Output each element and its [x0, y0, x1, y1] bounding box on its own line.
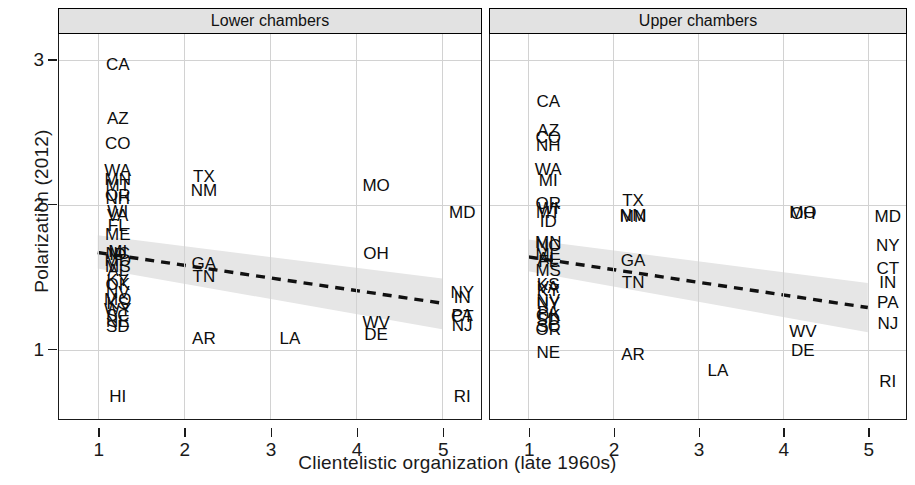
- data-point-label: MO: [362, 176, 389, 193]
- data-point-label: DE: [364, 325, 388, 342]
- x-gridline: [868, 34, 869, 419]
- data-point-label: NY: [876, 237, 900, 254]
- x-axis-tick: [529, 428, 531, 437]
- chart-figure: Polarization (2012) Lower chambers CAAZC…: [0, 0, 915, 485]
- data-point-label: AR: [621, 345, 645, 362]
- data-point-label: TN: [622, 273, 645, 290]
- data-point-label: LA: [708, 361, 729, 378]
- facet-strip-label: Lower chambers: [211, 12, 329, 30]
- data-point-label: CA: [536, 92, 560, 109]
- data-point-label: PA: [877, 293, 898, 310]
- x-gridline: [783, 34, 784, 419]
- data-point-label: IN: [879, 273, 896, 290]
- data-point-label: AR: [192, 329, 216, 346]
- facet-strip-label: Upper chambers: [639, 12, 757, 30]
- data-point-label: GA: [621, 251, 646, 268]
- data-point-label: OH: [363, 244, 389, 261]
- data-point-label: MN: [620, 208, 646, 225]
- data-point-label: RI: [879, 373, 896, 390]
- data-point-label: MD: [875, 208, 901, 225]
- data-point-label: NM: [191, 182, 217, 199]
- data-point-label: MI: [539, 172, 558, 189]
- y-gridline: [59, 350, 481, 351]
- x-gridline: [356, 34, 357, 419]
- y-axis-tick: [48, 349, 57, 351]
- x-gridline: [270, 34, 271, 419]
- data-point-label: CO: [105, 134, 131, 151]
- y-axis-tick: [48, 204, 57, 206]
- data-point-label: TN: [193, 267, 216, 284]
- data-point-label: NE: [536, 344, 560, 361]
- data-point-label: IN: [454, 289, 471, 306]
- data-point-label: LA: [280, 329, 301, 346]
- x-axis-tick: [614, 428, 616, 437]
- data-point-label: WV: [789, 322, 816, 339]
- data-point-label: AZ: [107, 109, 129, 126]
- data-point-label: OH: [790, 205, 816, 222]
- x-axis-tick: [443, 428, 445, 437]
- plot-area-lower-chambers: CAAZCOWAMNMTORNHWIVAFLMEMINCIDMDMSALKYOK…: [58, 34, 482, 420]
- x-axis-label: Clientelistic organization (late 1960s): [0, 452, 915, 474]
- data-point-label: HI: [109, 387, 126, 404]
- facet-strip-lower-chambers: Lower chambers: [58, 8, 482, 34]
- data-point-label: ME: [105, 225, 131, 242]
- facet-panel-upper-chambers: Upper chambers CAAZCONHWAMIORWIMTIDMNNCM…: [489, 8, 907, 420]
- x-axis-tick: [271, 428, 273, 437]
- y-axis-tick-label: 2: [22, 194, 44, 216]
- data-point-label: RI: [454, 387, 471, 404]
- x-axis-tick: [699, 428, 701, 437]
- x-gridline: [184, 34, 185, 419]
- x-axis-tick: [783, 428, 785, 437]
- y-axis-tick: [48, 59, 57, 61]
- y-axis-tick-label: 3: [22, 49, 44, 71]
- x-gridline: [528, 34, 529, 419]
- y-gridline: [490, 60, 906, 61]
- x-axis-tick: [357, 428, 359, 437]
- data-point-label: NJ: [452, 316, 473, 333]
- x-axis-tick: [184, 428, 186, 437]
- data-point-label: SD: [106, 318, 130, 335]
- data-point-label: MD: [449, 204, 475, 221]
- data-point-label: ID: [540, 212, 557, 229]
- data-point-label: NH: [536, 137, 561, 154]
- data-point-label: OR: [535, 321, 561, 338]
- facet-strip-upper-chambers: Upper chambers: [489, 8, 907, 34]
- x-axis-tick: [868, 428, 870, 437]
- plot-area-upper-chambers: CAAZCONHWAMIORWIMTIDMNNCMEALFLMSKSVAKYNV…: [489, 34, 907, 420]
- data-point-label: CA: [106, 56, 130, 73]
- data-point-label: DE: [791, 341, 815, 358]
- facet-panel-lower-chambers: Lower chambers CAAZCOWAMNMTORNHWIVAFLMEM…: [58, 8, 482, 420]
- x-gridline: [98, 34, 99, 419]
- y-axis-tick-label: 1: [22, 339, 44, 361]
- x-axis-tick: [98, 428, 100, 437]
- x-gridline: [698, 34, 699, 419]
- x-gridline: [613, 34, 614, 419]
- data-point-label: NJ: [877, 315, 898, 332]
- x-gridline: [442, 34, 443, 419]
